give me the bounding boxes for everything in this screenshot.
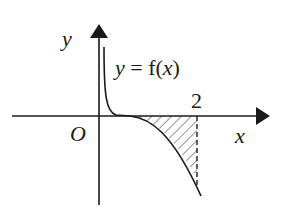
curve-label-suffix: ) bbox=[173, 55, 180, 80]
x-axis-arrow-icon bbox=[256, 107, 270, 125]
y-axis bbox=[90, 24, 108, 205]
curve-label-var: x bbox=[162, 55, 173, 80]
tick-label-2: 2 bbox=[191, 88, 202, 113]
curve-label-mid: = f( bbox=[125, 55, 163, 80]
curve-label: y = f(x) bbox=[113, 55, 180, 80]
x-axis-label: x bbox=[234, 123, 245, 148]
y-axis-label: y bbox=[60, 26, 72, 51]
x-axis bbox=[12, 107, 270, 125]
origin-label: O bbox=[70, 121, 86, 146]
function-graph: y O x 2 y = f(x) bbox=[0, 0, 283, 211]
y-axis-arrow-icon bbox=[90, 24, 108, 38]
